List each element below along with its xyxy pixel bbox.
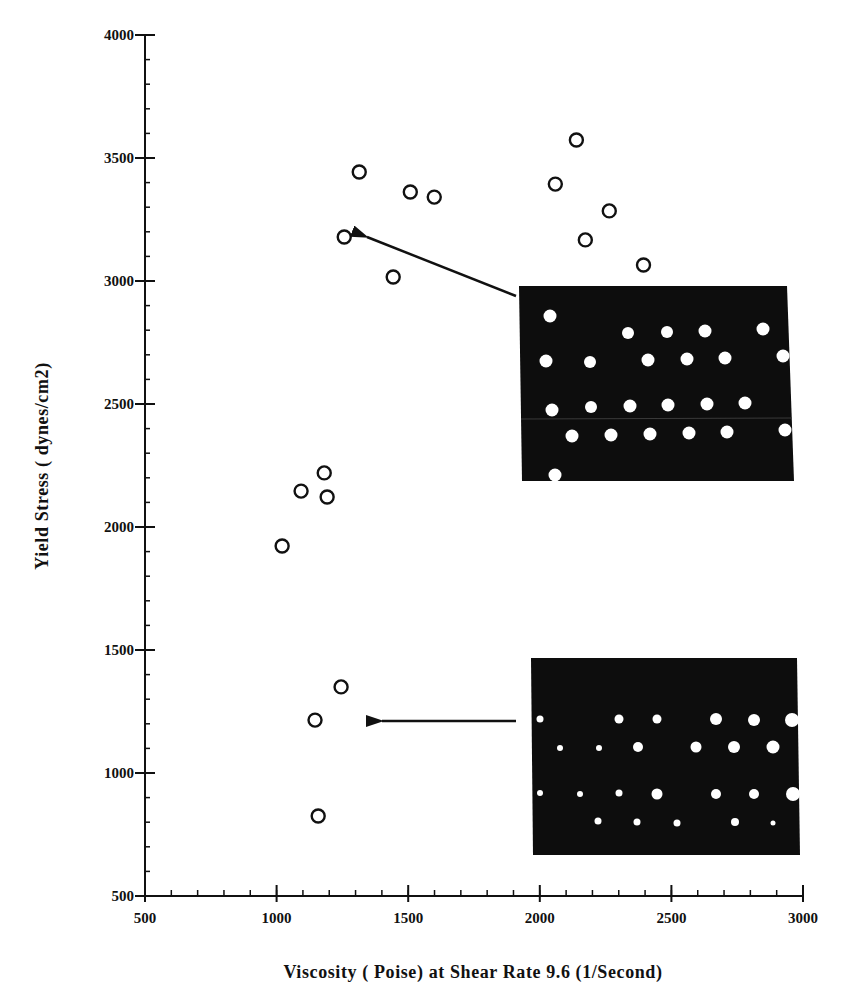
x-tick-label: 2500: [656, 910, 686, 926]
y-tick-label: 4000: [104, 27, 134, 43]
micrograph-dot: [595, 818, 602, 825]
y-tick-label: 3500: [104, 150, 134, 166]
y-tick-label: 1000: [104, 765, 134, 781]
data-point-marker: [570, 134, 583, 147]
micrograph-dot: [585, 401, 597, 413]
data-point-marker: [295, 485, 308, 498]
micrograph-dot: [771, 821, 776, 826]
micrograph-dot: [642, 354, 655, 367]
micrograph-dot: [557, 745, 563, 751]
data-point-marker: [335, 680, 348, 693]
micrograph-dot: [546, 404, 559, 417]
data-point-marker: [276, 539, 289, 552]
y-axis-title: Yield Stress ( dynes/cm2): [32, 362, 53, 570]
data-point-marker: [428, 191, 441, 204]
x-tick-label: 500: [134, 910, 157, 926]
data-point-marker: [338, 230, 351, 243]
micrograph-dot: [662, 399, 675, 412]
micrograph-dot: [719, 352, 732, 365]
micrograph-dot: [749, 789, 759, 799]
micrograph-dot: [633, 742, 643, 752]
data-point-marker: [312, 810, 325, 823]
x-tick-label: 1500: [393, 910, 423, 926]
data-point-marker: [318, 466, 331, 479]
micrograph-dot: [634, 819, 641, 826]
y-tick-label: 3000: [104, 273, 134, 289]
micrograph-dot: [691, 742, 702, 753]
scatter-chart: 5001000150020002500300035004000500100015…: [0, 0, 845, 1001]
micrograph-dot: [549, 469, 562, 482]
micrograph-dot: [577, 791, 583, 797]
micrograph-dot: [721, 426, 734, 439]
micrograph-dot: [711, 789, 721, 799]
micrograph-inset-uniform-dots: [519, 286, 794, 482]
micrograph-dot: [731, 818, 739, 826]
data-point-marker: [387, 271, 400, 284]
micrograph-dot: [622, 327, 634, 339]
micrograph-dot: [739, 397, 752, 410]
x-tick-label: 3000: [788, 910, 818, 926]
micrograph-dot: [616, 790, 623, 797]
data-point-marker: [353, 166, 366, 179]
micrograph-dot: [653, 715, 662, 724]
micrograph-dot: [710, 713, 722, 725]
x-tick-label: 1000: [262, 910, 292, 926]
arrow-to-high-cluster: [367, 237, 516, 296]
micrograph-dot: [699, 325, 712, 338]
x-tick-label: 2000: [525, 910, 555, 926]
micrograph-dot: [777, 350, 790, 363]
micrograph-dot: [566, 430, 579, 443]
micrograph-dot: [652, 789, 663, 800]
micrograph-dot: [584, 356, 596, 368]
micrograph-dot: [785, 713, 799, 727]
insets: [367, 237, 800, 855]
micrograph-dot: [605, 429, 618, 442]
data-point-marker: [321, 490, 334, 503]
x-axis-title: Viscosity ( Poise) at Shear Rate 9.6 (1/…: [283, 962, 662, 983]
micrograph-dot: [544, 310, 557, 323]
data-point-marker: [637, 259, 650, 272]
y-tick-label: 2000: [104, 519, 134, 535]
micrograph-dot: [786, 787, 800, 801]
micrograph-dot: [615, 715, 624, 724]
data-point-marker: [603, 204, 616, 217]
micrograph-dot: [674, 820, 681, 827]
data-point-marker: [579, 233, 592, 246]
micrograph-dot: [779, 424, 792, 437]
micrograph-dot: [683, 427, 696, 440]
data-point-marker: [549, 178, 562, 191]
micrograph-dot: [767, 741, 780, 754]
micrograph-dot: [537, 790, 543, 796]
micrograph-dot: [757, 323, 770, 336]
micrograph-dot: [644, 428, 657, 441]
micrograph-dot: [701, 398, 714, 411]
micrograph-dot: [596, 745, 602, 751]
micrograph-dot: [540, 355, 553, 368]
y-tick-label: 500: [112, 888, 135, 904]
micrograph-dot: [537, 716, 544, 723]
micrograph-dot: [748, 714, 760, 726]
micrograph-dot: [681, 353, 694, 366]
data-point-marker: [309, 714, 322, 727]
micrograph-inset-nonuniform-dots: [531, 658, 800, 855]
y-tick-label: 2500: [104, 396, 134, 412]
y-tick-label: 1500: [104, 642, 134, 658]
data-point-marker: [404, 185, 417, 198]
micrograph-dot: [661, 326, 673, 338]
micrograph-dot: [728, 741, 740, 753]
micrograph-dot: [624, 400, 637, 413]
